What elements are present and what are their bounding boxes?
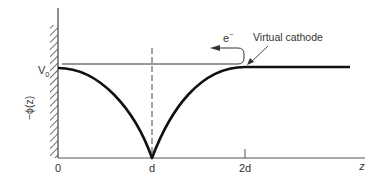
annotation-label: Virtual cathode	[253, 31, 323, 43]
v0-label: V0	[38, 64, 50, 79]
tick-label-d: d	[149, 162, 155, 174]
electron-label: e−	[223, 31, 233, 44]
annotation-arrow	[250, 46, 268, 63]
virtual-cathode-diagram: Virtual cathode e− V0 −ϕ(z) 0 d 2d z	[0, 0, 386, 185]
x-axis-label: z	[358, 160, 365, 172]
electron-trajectory	[62, 48, 244, 64]
tick-label-0: 0	[55, 162, 61, 174]
tick-label-2d: 2d	[239, 162, 251, 174]
y-axis-label: −ϕ(z)	[23, 96, 35, 120]
potential-curve	[58, 67, 350, 158]
annotation-arrowhead-icon	[247, 58, 254, 65]
electron-arrowhead-icon	[210, 45, 220, 51]
cathode-wall-hatching	[50, 25, 58, 158]
